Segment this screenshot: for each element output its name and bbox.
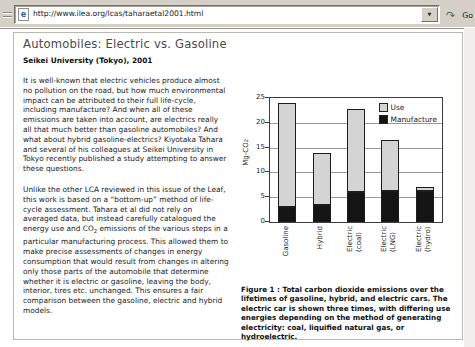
article-text-column: Automobiles: Electric vs. Gasoline Seike… <box>23 37 229 316</box>
chart: Mg-CO2 UseManufacture 0510152025Gasoline… <box>241 91 459 281</box>
bar-seg <box>347 192 365 222</box>
cat-label: Electric (hydro) <box>415 226 433 252</box>
bar-seg <box>347 109 365 192</box>
ytickmark <box>265 171 269 172</box>
cat-label: Electric (coal) <box>346 226 364 252</box>
ytick: 0 <box>241 217 265 225</box>
ytick: 15 <box>241 143 265 151</box>
page-gutter <box>464 28 475 347</box>
bar-seg <box>278 103 296 207</box>
ytick: 25 <box>241 93 265 101</box>
bar-seg <box>381 140 399 191</box>
chevron-down-icon: ▼ <box>422 8 437 21</box>
figure-caption: Figure 1 : Total carbon dioxide emission… <box>241 285 455 341</box>
legend-swatch <box>379 115 388 124</box>
ytickmark <box>265 97 269 98</box>
ytick: 20 <box>241 118 265 126</box>
ytick: 5 <box>241 192 265 200</box>
address-dropdown-button[interactable]: ▼ <box>421 7 438 22</box>
ytickmark <box>265 122 269 123</box>
ytickmark <box>265 196 269 197</box>
go-button[interactable]: ↷ Go <box>446 5 475 23</box>
paragraph-2: Unlike the other LCA reviewed in this is… <box>23 185 229 316</box>
toolbar-grip-icon[interactable] <box>3 12 12 18</box>
page-icon: e <box>18 8 29 21</box>
url-text[interactable]: http://www.ilea.org/lcas/taharaetal2001.… <box>33 9 203 18</box>
bar-seg <box>313 153 331 205</box>
article-subtitle: Seikei University (Tokyo), 2001 <box>23 56 229 65</box>
legend-row: Use <box>379 103 437 112</box>
paragraph-1: It is well-known that electric vehicles … <box>23 76 229 174</box>
legend-swatch <box>379 103 388 112</box>
bar-seg <box>416 187 434 191</box>
cat-label: Gasoline <box>282 226 291 256</box>
go-arrow-icon: ↷ <box>446 9 455 22</box>
legend-row: Manufacture <box>379 115 437 124</box>
bar-seg <box>278 207 296 222</box>
article-frame: Automobiles: Electric vs. Gasoline Seike… <box>13 32 463 340</box>
figure: Mg-CO2 UseManufacture 0510152025Gasoline… <box>241 91 459 341</box>
bar-seg <box>381 191 399 222</box>
page-title: Automobiles: Electric vs. Gasoline <box>23 37 229 51</box>
ytickmark <box>265 147 269 148</box>
ytick: 10 <box>241 167 265 175</box>
cat-label: Electric (LNG) <box>380 226 398 252</box>
cat-label: Hybrid <box>316 226 325 249</box>
legend: UseManufacture <box>379 103 437 127</box>
go-label: Go <box>462 11 473 20</box>
legend-label: Manufacture <box>391 115 437 124</box>
bar-seg <box>313 205 331 222</box>
bar-seg <box>416 191 434 222</box>
ytickmark <box>265 221 269 222</box>
address-field[interactable]: e http://www.ilea.org/lcas/taharaetal200… <box>14 5 440 24</box>
paragraph-2-post: emissions of the various steps in a part… <box>23 224 229 315</box>
browser-address-bar: e http://www.ilea.org/lcas/taharaetal200… <box>0 0 475 29</box>
chart-plot: UseManufacture <box>269 97 443 223</box>
legend-label: Use <box>391 103 405 112</box>
